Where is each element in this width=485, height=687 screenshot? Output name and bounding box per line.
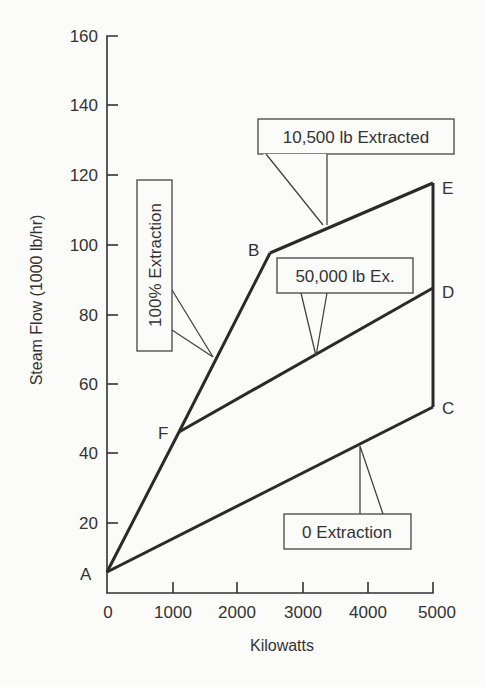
point-label-b: B bbox=[248, 241, 259, 260]
x-tick: 5000 bbox=[418, 603, 456, 622]
callout-0-extraction: 0 Extraction bbox=[284, 446, 411, 549]
point-label-a: A bbox=[80, 565, 92, 584]
y-tick: 60 bbox=[79, 375, 98, 394]
y-tick: 20 bbox=[79, 514, 98, 533]
callout-100-extraction: 100% Extraction bbox=[137, 180, 213, 357]
x-tick-labels: 0 1000 2000 3000 4000 5000 bbox=[103, 603, 456, 622]
line-10500-extracted bbox=[270, 183, 433, 253]
y-tick: 140 bbox=[70, 96, 98, 115]
steam-flow-chart: 160 140 120 100 80 60 40 20 0 1000 2000 … bbox=[0, 0, 485, 687]
y-axis-label: Steam Flow (1000 lb/hr) bbox=[28, 215, 45, 386]
point-label-d: D bbox=[442, 283, 454, 302]
y-tick: 100 bbox=[70, 236, 98, 255]
y-tick: 160 bbox=[70, 27, 98, 46]
x-axis-label: Kilowatts bbox=[250, 637, 314, 654]
y-tick: 120 bbox=[70, 166, 98, 185]
x-tick: 3000 bbox=[284, 603, 322, 622]
x-tick: 4000 bbox=[349, 603, 387, 622]
y-tick-labels: 160 140 120 100 80 60 40 20 bbox=[70, 27, 98, 533]
x-tick: 1000 bbox=[154, 603, 192, 622]
callout-text: 50,000 lb Ex. bbox=[295, 267, 394, 286]
x-tick: 0 bbox=[103, 603, 112, 622]
y-tick: 40 bbox=[79, 444, 98, 463]
x-tick: 2000 bbox=[218, 603, 256, 622]
callout-text: 100% Extraction bbox=[146, 203, 165, 327]
callout-text: 0 Extraction bbox=[302, 523, 392, 542]
point-label-f: F bbox=[158, 424, 168, 443]
line-100-extraction bbox=[107, 253, 270, 572]
callout-50000-ex: 50,000 lb Ex. bbox=[277, 258, 413, 356]
point-label-e: E bbox=[442, 179, 453, 198]
point-label-c: C bbox=[442, 399, 454, 418]
callout-text: 10,500 lb Extracted bbox=[283, 128, 429, 147]
y-tick: 80 bbox=[79, 306, 98, 325]
